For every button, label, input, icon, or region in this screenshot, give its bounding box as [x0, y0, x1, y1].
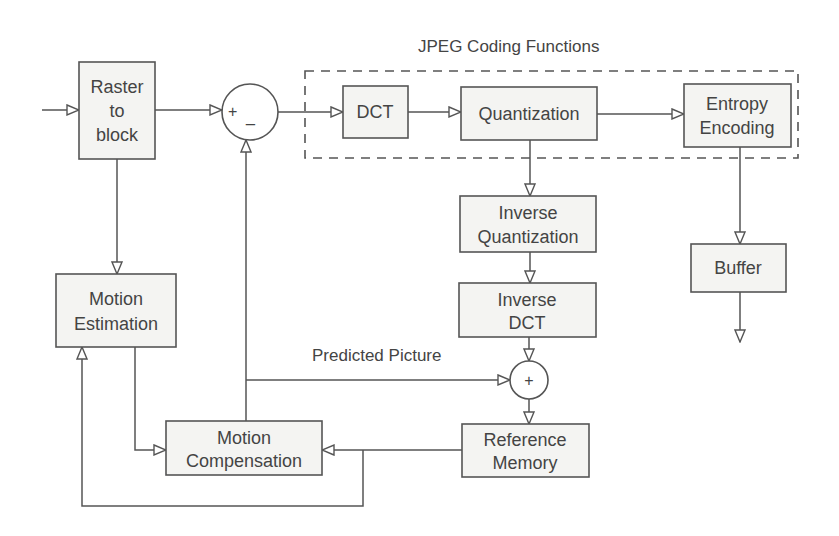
svg-text:Inverse: Inverse [497, 290, 556, 310]
motion-est-to-comp [135, 347, 166, 450]
svg-text:Quantization: Quantization [477, 227, 578, 247]
block-dct: DCT [343, 86, 408, 138]
block-entropy-encoding: Entropy Encoding [684, 84, 791, 147]
svg-text:DCT: DCT [357, 102, 394, 122]
svg-text:Reference: Reference [483, 430, 566, 450]
svg-text:Memory: Memory [492, 453, 557, 473]
block-raster: Raster to block [79, 62, 155, 159]
svg-text:DCT: DCT [509, 313, 546, 333]
block-inverse-dct: Inverse DCT [459, 283, 596, 337]
svg-text:Inverse: Inverse [498, 203, 557, 223]
block-quantization: Quantization [461, 87, 597, 140]
block-motion-estimation: Motion Estimation [56, 274, 176, 347]
svg-text:Quantization: Quantization [478, 104, 579, 124]
svg-text:Encoding: Encoding [699, 118, 774, 138]
svg-text:Estimation: Estimation [74, 314, 158, 334]
svg-text:block: block [96, 125, 139, 145]
mpeg-encoder-diagram: JPEG Coding Functions Raster to block + … [0, 0, 839, 536]
svg-text:Motion: Motion [89, 289, 143, 309]
block-reference-memory: Reference Memory [462, 424, 589, 477]
adder: + [510, 361, 548, 399]
svg-text:_: _ [245, 108, 256, 126]
subtractor: + _ [222, 84, 278, 140]
svg-text:Raster: Raster [90, 77, 143, 97]
svg-text:Entropy: Entropy [706, 94, 768, 114]
jpeg-group-label: JPEG Coding Functions [418, 37, 599, 56]
svg-text:Compensation: Compensation [186, 451, 302, 471]
block-motion-compensation: Motion Compensation [166, 421, 322, 475]
svg-text:Buffer: Buffer [714, 258, 762, 278]
svg-text:+: + [228, 103, 237, 120]
svg-text:+: + [524, 372, 533, 389]
predicted-picture-label: Predicted Picture [312, 346, 441, 365]
block-buffer: Buffer [691, 244, 786, 292]
block-inverse-quantization: Inverse Quantization [460, 196, 596, 252]
svg-text:Motion: Motion [217, 428, 271, 448]
svg-text:to: to [109, 101, 124, 121]
